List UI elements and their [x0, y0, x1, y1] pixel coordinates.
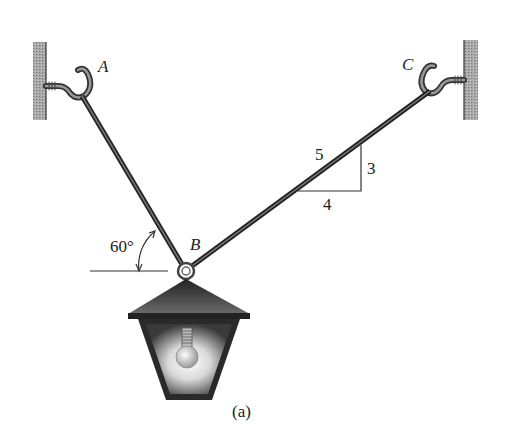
- lamp-icon: [128, 279, 250, 400]
- hook-a-icon: [46, 69, 90, 98]
- label-slope-rise: 3: [367, 160, 376, 177]
- figure-caption: (a): [232, 403, 251, 420]
- label-angle: 60°: [110, 238, 134, 255]
- label-point-a: A: [98, 58, 108, 75]
- label-slope-hyp: 5: [315, 146, 324, 163]
- cable-bc: [192, 91, 430, 266]
- label-slope-run: 4: [323, 196, 332, 213]
- ring-b: [178, 263, 194, 279]
- label-point-b: B: [190, 236, 200, 253]
- wall-left: [33, 42, 46, 120]
- label-point-c: C: [402, 56, 413, 73]
- hook-c-icon: [421, 66, 464, 94]
- statics-diagram: [0, 0, 519, 434]
